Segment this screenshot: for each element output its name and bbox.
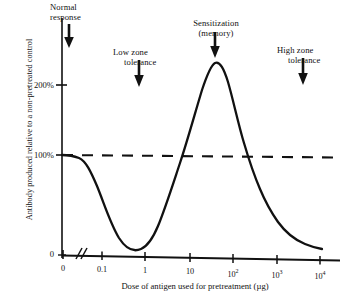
x-tick-1000-exponent: 3 [280, 269, 283, 275]
x-axis-tick-label-10000: 104 [306, 270, 334, 281]
sensitization-line2: (memory) [186, 28, 246, 38]
y-axis-tick-label-100: 100% [16, 150, 54, 160]
x-axis-tick-label-0: 0 [49, 264, 77, 273]
high-zone-line1: High zone [277, 45, 313, 55]
sensitization-line1: Sensitization [193, 18, 239, 28]
x-tick-100-base: 10 [227, 270, 235, 279]
axis-break-marker [76, 248, 87, 259]
y-axis-tick-label-0: 0 [16, 249, 54, 259]
x-tick-1000-base: 10 [271, 271, 279, 280]
x-tick-10000-exponent: 4 [323, 270, 326, 276]
x-axis-tick-label-100: 102 [219, 268, 247, 279]
x-tick-10000-base: 10 [314, 272, 322, 281]
annotation-high-zone-tolerance: High zone tolerance [277, 45, 320, 65]
annotation-low-zone-tolerance: Low zone tolerance [113, 47, 156, 67]
x-axis-tick-label-0.1: 0.1 [88, 265, 116, 274]
x-axis-title: Dose of antigen used for pretreatment (µ… [60, 281, 330, 291]
x-axis-tick-label-10: 10 [176, 267, 204, 276]
y-axis-tick-label-200: 200% [16, 80, 54, 90]
x-axis-line [62, 256, 340, 261]
normal-response-line1: Normal [50, 2, 77, 12]
normal-response-arrow-icon [64, 24, 74, 48]
low-zone-line2: tolerance [113, 57, 156, 67]
high-zone-line2: tolerance [277, 55, 320, 65]
x-tick-100-exponent: 2 [236, 268, 239, 274]
normal-response-line2: response [50, 12, 81, 22]
control-reference-dashed-line [62, 155, 338, 158]
annotation-sensitization-memory: Sensitization (memory) [186, 18, 246, 38]
y-axis-title: Antibody produced relative to a non-pret… [25, 20, 34, 240]
antibody-dose-response-chart: Normal response Low zone tolerance Sensi… [0, 0, 353, 302]
x-axis-tick-label-1000: 103 [263, 269, 291, 280]
low-zone-line1: Low zone [113, 47, 148, 57]
annotation-normal-response: Normal response [50, 2, 81, 22]
x-axis-tick-label-1: 1 [131, 266, 159, 275]
